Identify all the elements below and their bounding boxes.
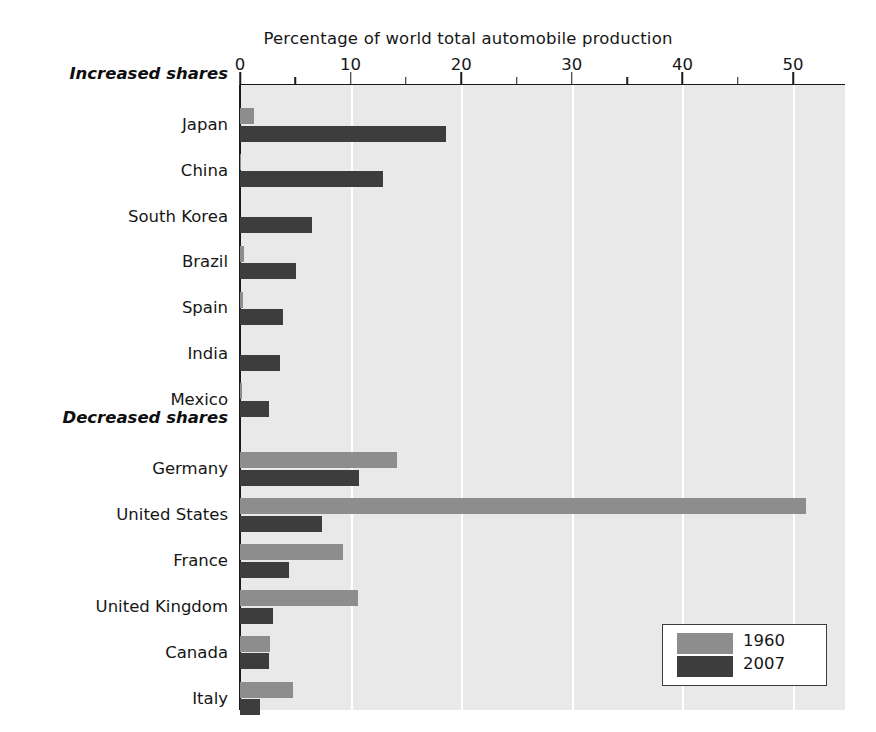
bar-2007-united-kingdom xyxy=(240,608,273,624)
chart-title-text: Percentage of world total automobile pro… xyxy=(263,29,672,48)
bar-2007-france xyxy=(240,562,289,578)
bar-1960-spain xyxy=(240,292,243,308)
x-tick-label-30: 30 xyxy=(561,55,582,74)
bar-2007-canada xyxy=(240,653,269,669)
bar-1960-japan xyxy=(240,108,254,124)
bar-1960-germany xyxy=(240,452,397,468)
y-label-germany: Germany xyxy=(0,459,228,478)
gridline-40 xyxy=(682,85,684,710)
x-tick-label-10: 10 xyxy=(340,55,361,74)
gridline-50 xyxy=(793,85,795,710)
bar-1960-united-kingdom xyxy=(240,590,358,606)
bar-2007-south-korea xyxy=(240,217,312,233)
legend-label-2007: 2007 xyxy=(743,654,785,673)
y-label-united-kingdom: United Kingdom xyxy=(0,597,228,616)
bar-1960-italy xyxy=(240,682,293,698)
bar-2007-japan xyxy=(240,126,446,142)
legend-label-1960: 1960 xyxy=(743,631,785,650)
legend-swatch-2007 xyxy=(677,656,733,677)
x-minor-tick-15 xyxy=(405,77,407,85)
y-label-canada: Canada xyxy=(0,643,228,662)
x-tick-label-20: 20 xyxy=(451,55,472,74)
group-label-decreased-shares: Decreased shares xyxy=(0,408,228,427)
y-label-south-korea: South Korea xyxy=(0,207,228,226)
x-minor-tick-45 xyxy=(737,77,739,85)
bar-2007-united-states xyxy=(240,516,322,532)
legend: 1960 2007 xyxy=(662,624,827,686)
x-tick-label-0: 0 xyxy=(235,55,246,74)
bar-1960-canada xyxy=(240,636,270,652)
x-axis-line xyxy=(240,84,845,86)
y-label-brazil: Brazil xyxy=(0,252,228,271)
bar-2007-china xyxy=(240,171,383,187)
y-label-mexico: Mexico xyxy=(0,390,228,409)
y-label-united-states: United States xyxy=(0,505,228,524)
bar-2007-italy xyxy=(240,699,260,715)
y-label-japan: Japan xyxy=(0,115,228,134)
legend-item-1960: 1960 xyxy=(677,633,817,654)
bar-1960-france xyxy=(240,544,343,560)
gridline-30 xyxy=(572,85,574,710)
y-label-france: France xyxy=(0,551,228,570)
x-minor-tick-25 xyxy=(516,77,518,85)
bar-1960-brazil xyxy=(240,246,244,262)
x-tick-label-40: 40 xyxy=(672,55,693,74)
legend-swatch-1960 xyxy=(677,633,733,654)
group-label-increased-shares: Increased shares xyxy=(0,64,228,83)
bar-2007-spain xyxy=(240,309,283,325)
legend-item-2007: 2007 xyxy=(677,656,817,677)
bar-2007-brazil xyxy=(240,263,296,279)
y-label-india: India xyxy=(0,344,228,363)
chart-title: Percentage of world total automobile pro… xyxy=(0,29,876,48)
bar-2007-germany xyxy=(240,470,359,486)
y-label-spain: Spain xyxy=(0,298,228,317)
bar-2007-mexico xyxy=(240,401,269,417)
y-label-china: China xyxy=(0,161,228,180)
bar-2007-india xyxy=(240,355,280,371)
y-label-italy: Italy xyxy=(0,689,228,708)
automobile-production-bar-chart: Percentage of world total automobile pro… xyxy=(0,0,876,732)
bar-1960-china xyxy=(240,154,241,170)
x-minor-tick-5 xyxy=(295,77,297,85)
bar-1960-mexico xyxy=(240,383,242,399)
x-minor-tick-35 xyxy=(626,77,628,85)
x-tick-label-50: 50 xyxy=(783,55,804,74)
gridline-20 xyxy=(461,85,463,710)
bar-1960-united-states xyxy=(240,498,806,514)
